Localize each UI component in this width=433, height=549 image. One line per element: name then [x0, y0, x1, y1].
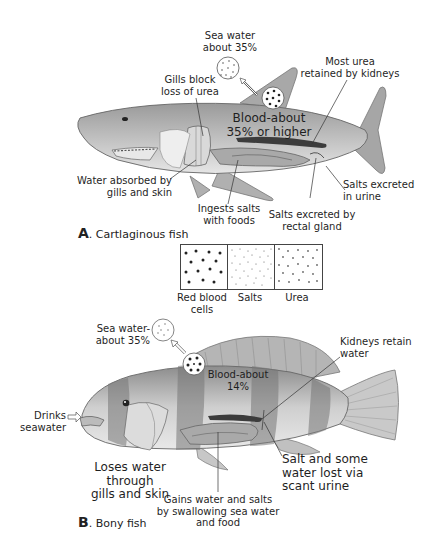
label-blood-a: Blood-about 35% or higher [224, 112, 314, 139]
caption-b: B. Bony fish [78, 514, 147, 530]
label-water-absorbed: Water absorbed by gills and skin [68, 175, 172, 198]
seawater-circle-b [152, 319, 174, 341]
legend-swatch-red-blood-cells [180, 244, 229, 290]
legend-label-urea: Urea [277, 292, 317, 304]
large-dots-icon [181, 245, 228, 289]
legend-swatch-urea [274, 244, 323, 290]
caption-a: A. Cartlaginous fish [78, 225, 188, 241]
label-kidneys-retain-water: Kidneys retain water [340, 336, 432, 359]
label-drinks-seawater: Drinks seawater [18, 410, 66, 433]
legend-label-red-blood-cells: Red blood cells [172, 292, 232, 315]
label-salt-water-lost: Salt and some water lost via scant urine [282, 453, 392, 494]
legend-label-salts: Salts [230, 292, 270, 304]
tiny-dots-icon [228, 245, 275, 289]
legend-swatch-salts [227, 244, 276, 290]
label-salts-rectal-gland: Salts excreted by rectal gland [266, 209, 358, 232]
label-salts-urine: Salts excreted in urine [343, 179, 433, 202]
label-gills-block-urea: Gills block loss of urea [160, 74, 220, 97]
label-ingests-salts: Ingests salts with foods [196, 203, 262, 226]
label-gains-water-salts: Gains water and salts by swallowing sea … [150, 494, 286, 529]
label-sea-water-a: Sea water about 35% [200, 30, 260, 53]
label-most-urea-kidneys: Most urea retained by kidneys [300, 56, 400, 79]
small-dots-icon [275, 245, 322, 289]
label-blood-b: Blood-about 14% [203, 369, 273, 392]
label-sea-water-b: Sea water- about 35% [80, 323, 150, 346]
